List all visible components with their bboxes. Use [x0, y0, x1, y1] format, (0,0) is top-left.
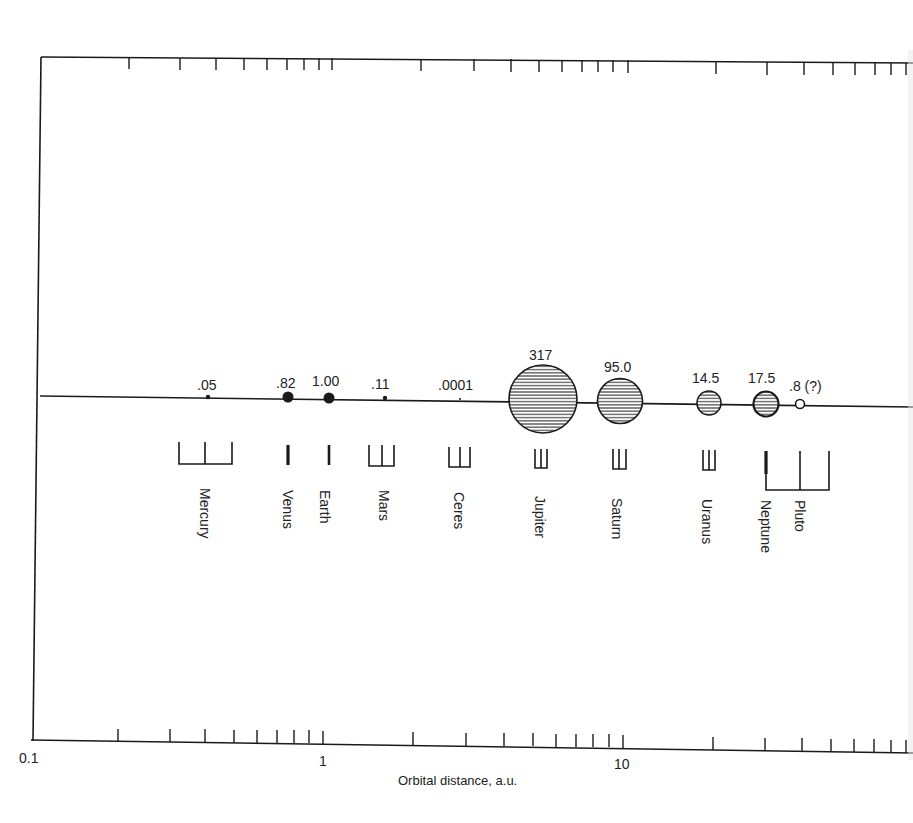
planet-name-saturn: Saturn: [609, 498, 625, 539]
x-tick-label-0-1: 0.1: [19, 750, 39, 766]
planet-name-mercury: Mercury: [197, 488, 213, 539]
marker-neptune: [754, 392, 779, 417]
x-axis-title: Orbital distance, a.u.: [398, 773, 517, 788]
top-axis-line: [41, 57, 913, 63]
bracket-mercury: [179, 442, 232, 464]
bracket-ceres: [449, 447, 470, 467]
marker-jupiter: [509, 365, 577, 433]
planet-name-uranus: Uranus: [699, 499, 715, 544]
marker-mars: [383, 396, 387, 400]
planet-name-neptune: Neptune: [758, 500, 774, 553]
x-tick-label-1: 1: [319, 753, 327, 769]
bracket-saturn: [613, 449, 626, 469]
planet-names: Mercury Venus Earth Mars Ceres Jupiter S…: [197, 488, 808, 553]
bottom-axis-ticks: [118, 729, 906, 753]
mass-label-jupiter: 317: [529, 347, 553, 363]
marker-earth: [324, 393, 335, 404]
mass-label-saturn: 95.0: [604, 359, 631, 375]
planet-name-mars: Mars: [376, 490, 392, 521]
marker-venus: [283, 392, 294, 403]
mass-label-ceres: .0001: [438, 377, 473, 393]
orbital-line: [40, 396, 913, 407]
bracket-jupiter: [535, 449, 547, 468]
bracket-mars: [369, 445, 394, 466]
marker-uranus: [697, 391, 721, 415]
left-axis-line: [33, 57, 41, 741]
mass-label-uranus: 14.5: [692, 370, 719, 386]
orbit-range-brackets: [179, 442, 829, 490]
planet-name-venus: Venus: [280, 490, 296, 529]
bracket-uranus: [703, 450, 715, 470]
mass-label-earth: 1.00: [312, 373, 339, 389]
planet-name-pluto: Pluto: [792, 500, 808, 532]
planet-name-jupiter: Jupiter: [532, 496, 548, 538]
marker-mercury: [206, 395, 210, 399]
x-tick-label-10: 10: [614, 756, 630, 772]
bracket-pluto: [766, 451, 829, 490]
mass-label-mercury: .05: [197, 377, 217, 393]
mass-labels: .05 .82 1.00 .11 .0001 317 95.0 14.5 17.…: [197, 347, 822, 394]
planet-name-ceres: Ceres: [451, 492, 467, 529]
mass-label-neptune: 17.5: [748, 370, 775, 386]
orbital-distance-chart: 0.1 1 10 Orbital distance, a.u. .05 .82 …: [0, 0, 913, 823]
marker-ceres: [459, 398, 461, 400]
scan-edge-shadow: [908, 50, 913, 760]
marker-pluto: [796, 400, 805, 409]
bottom-axis-line: [31, 740, 913, 753]
planet-name-earth: Earth: [317, 490, 333, 523]
mass-label-pluto: .8 (?): [789, 378, 822, 394]
marker-saturn: [598, 379, 643, 424]
mass-label-venus: .82: [276, 375, 296, 391]
mass-label-mars: .11: [371, 376, 390, 392]
